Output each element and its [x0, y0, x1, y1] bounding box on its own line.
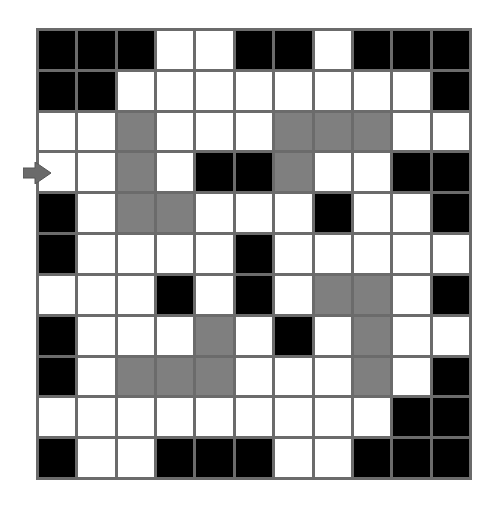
open-cell[interactable] [393, 194, 429, 232]
open-cell[interactable] [315, 72, 351, 110]
wall-cell[interactable] [157, 276, 193, 314]
open-cell[interactable] [315, 358, 351, 396]
wall-cell[interactable] [236, 276, 272, 314]
path-cell[interactable] [118, 153, 154, 191]
wall-cell[interactable] [118, 31, 154, 69]
open-cell[interactable] [39, 398, 75, 436]
open-cell[interactable] [78, 153, 114, 191]
open-cell[interactable] [275, 398, 311, 436]
path-cell[interactable] [275, 113, 311, 151]
wall-cell[interactable] [275, 317, 311, 355]
path-cell[interactable] [118, 113, 154, 151]
open-cell[interactable] [275, 235, 311, 273]
open-cell[interactable] [354, 194, 390, 232]
wall-cell[interactable] [236, 235, 272, 273]
wall-cell[interactable] [196, 153, 232, 191]
open-cell[interactable] [78, 317, 114, 355]
path-cell[interactable] [315, 276, 351, 314]
open-cell[interactable] [39, 113, 75, 151]
wall-cell[interactable] [354, 439, 390, 477]
open-cell[interactable] [236, 317, 272, 355]
wall-cell[interactable] [78, 72, 114, 110]
open-cell[interactable] [275, 358, 311, 396]
open-cell[interactable] [196, 72, 232, 110]
open-cell[interactable] [315, 31, 351, 69]
open-cell[interactable] [315, 439, 351, 477]
open-cell[interactable] [236, 358, 272, 396]
open-cell[interactable] [393, 317, 429, 355]
wall-cell[interactable] [393, 398, 429, 436]
wall-cell[interactable] [433, 72, 469, 110]
wall-cell[interactable] [433, 194, 469, 232]
path-cell[interactable] [118, 194, 154, 232]
open-cell[interactable] [354, 235, 390, 273]
open-cell[interactable] [118, 398, 154, 436]
open-cell[interactable] [393, 72, 429, 110]
open-cell[interactable] [78, 398, 114, 436]
path-cell[interactable] [354, 358, 390, 396]
path-cell[interactable] [157, 194, 193, 232]
wall-cell[interactable] [78, 31, 114, 69]
path-cell[interactable] [354, 317, 390, 355]
wall-cell[interactable] [39, 439, 75, 477]
open-cell[interactable] [78, 113, 114, 151]
open-cell[interactable] [393, 113, 429, 151]
wall-cell[interactable] [236, 153, 272, 191]
open-cell[interactable] [157, 72, 193, 110]
open-cell[interactable] [78, 358, 114, 396]
path-cell[interactable] [196, 317, 232, 355]
wall-cell[interactable] [433, 439, 469, 477]
wall-cell[interactable] [39, 194, 75, 232]
path-cell[interactable] [196, 358, 232, 396]
wall-cell[interactable] [39, 358, 75, 396]
open-cell[interactable] [275, 194, 311, 232]
open-cell[interactable] [118, 235, 154, 273]
path-cell[interactable] [354, 113, 390, 151]
wall-cell[interactable] [354, 31, 390, 69]
wall-cell[interactable] [157, 439, 193, 477]
wall-cell[interactable] [39, 235, 75, 273]
wall-cell[interactable] [393, 153, 429, 191]
open-cell[interactable] [354, 153, 390, 191]
open-cell[interactable] [157, 235, 193, 273]
open-cell[interactable] [354, 398, 390, 436]
open-cell[interactable] [275, 276, 311, 314]
path-cell[interactable] [354, 276, 390, 314]
open-cell[interactable] [236, 398, 272, 436]
path-cell[interactable] [275, 153, 311, 191]
wall-cell[interactable] [433, 276, 469, 314]
open-cell[interactable] [157, 398, 193, 436]
open-cell[interactable] [78, 235, 114, 273]
open-cell[interactable] [393, 276, 429, 314]
wall-cell[interactable] [39, 72, 75, 110]
wall-cell[interactable] [393, 31, 429, 69]
path-cell[interactable] [157, 358, 193, 396]
open-cell[interactable] [315, 317, 351, 355]
open-cell[interactable] [39, 276, 75, 314]
path-cell[interactable] [315, 113, 351, 151]
open-cell[interactable] [275, 439, 311, 477]
open-cell[interactable] [78, 194, 114, 232]
open-cell[interactable] [236, 72, 272, 110]
wall-cell[interactable] [315, 194, 351, 232]
open-cell[interactable] [354, 72, 390, 110]
wall-cell[interactable] [39, 31, 75, 69]
open-cell[interactable] [275, 72, 311, 110]
wall-cell[interactable] [275, 31, 311, 69]
wall-cell[interactable] [196, 439, 232, 477]
open-cell[interactable] [315, 153, 351, 191]
open-cell[interactable] [118, 276, 154, 314]
open-cell[interactable] [196, 235, 232, 273]
wall-cell[interactable] [236, 31, 272, 69]
open-cell[interactable] [118, 317, 154, 355]
open-cell[interactable] [433, 317, 469, 355]
wall-cell[interactable] [433, 398, 469, 436]
open-cell[interactable] [196, 398, 232, 436]
open-cell[interactable] [157, 317, 193, 355]
open-cell[interactable] [196, 194, 232, 232]
open-cell[interactable] [236, 113, 272, 151]
open-cell[interactable] [157, 153, 193, 191]
open-cell[interactable] [315, 398, 351, 436]
open-cell[interactable] [433, 235, 469, 273]
open-cell[interactable] [393, 235, 429, 273]
